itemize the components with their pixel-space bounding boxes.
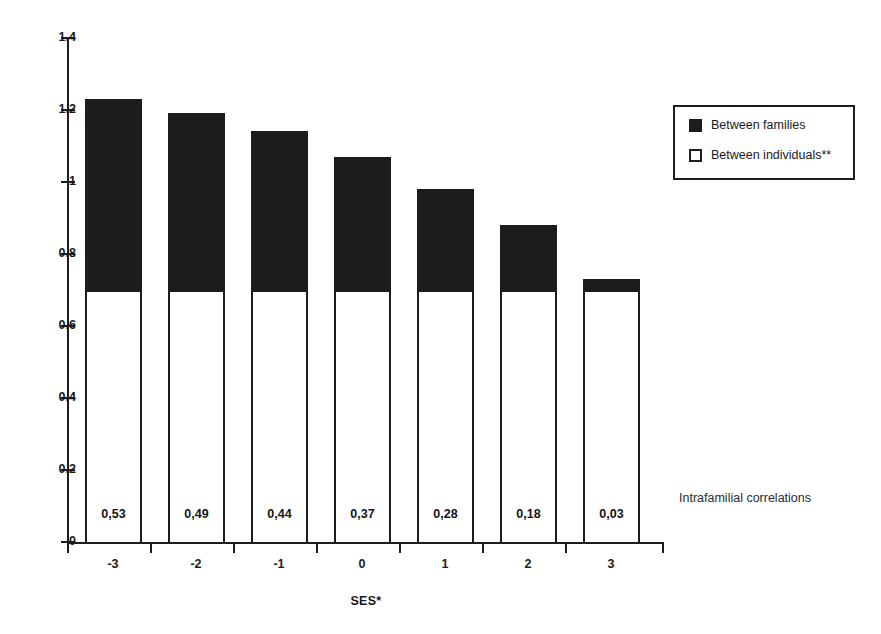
bar-value-label: 0,28	[417, 508, 474, 521]
bar-value-label: 0,18	[500, 508, 557, 521]
bar-segment-individuals	[417, 290, 474, 542]
y-tick-label: 1.4	[30, 31, 76, 44]
bar-segment-families	[334, 157, 391, 290]
x-tick-label-ses-3: 3	[581, 558, 641, 571]
bar-value-label: 0,03	[583, 508, 640, 521]
x-tick-label-ses-minus3: -3	[83, 558, 143, 571]
bar-segment-individuals	[251, 290, 308, 542]
bar-segment-families	[85, 99, 142, 290]
legend-label: Between individuals**	[711, 149, 831, 162]
bar-value-label: 0,44	[251, 508, 308, 521]
bar-segment-families	[168, 113, 225, 290]
legend-swatch-filled-icon	[689, 119, 702, 132]
x-axis-line	[67, 542, 664, 544]
legend-item-between-families: Between families	[689, 119, 806, 132]
bar-segment-families	[500, 225, 557, 290]
y-tick-label: 0.8	[30, 247, 76, 260]
x-tick-label-ses-1: 1	[415, 558, 475, 571]
legend-box: Between families Between individuals**	[673, 105, 855, 180]
bar-segment-individuals	[500, 290, 557, 542]
x-tick-label-ses-minus2: -2	[166, 558, 226, 571]
y-tick-label: 1	[30, 175, 76, 188]
x-tick-mark	[67, 543, 69, 553]
bar-segment-families	[251, 131, 308, 290]
x-tick-mark	[399, 543, 401, 553]
x-tick-mark	[482, 543, 484, 553]
bar-value-label: 0,49	[168, 508, 225, 521]
x-tick-label-ses-0: 0	[332, 558, 392, 571]
intrafamilial-correlations-annotation: Intrafamilial correlations	[679, 492, 811, 505]
bar-segment-individuals	[334, 290, 391, 542]
y-tick-label: 1.2	[30, 103, 76, 116]
x-tick-mark	[565, 543, 567, 553]
x-tick-label-ses-minus1: -1	[249, 558, 309, 571]
y-tick-label: 0.4	[30, 391, 76, 404]
legend-label: Between families	[711, 119, 806, 132]
y-tick-label: 0.6	[30, 319, 76, 332]
x-tick-mark-end	[662, 543, 664, 553]
legend-item-between-individuals: Between individuals**	[689, 149, 831, 162]
bar-segment-families	[583, 279, 640, 290]
x-axis-title: SES*	[306, 594, 426, 608]
bar-value-label: 0,53	[85, 508, 142, 521]
y-tick-label: 0.2	[30, 463, 76, 476]
bar-segment-families	[417, 189, 474, 290]
bar-segment-individuals	[583, 290, 640, 542]
x-tick-mark	[233, 543, 235, 553]
x-tick-label-ses-2: 2	[498, 558, 558, 571]
legend-swatch-open-icon	[689, 149, 702, 162]
x-tick-mark	[316, 543, 318, 553]
chart-figure: 1.4 1.2 1 0.8 0.6 0.4 0.2 0 0,53 0,49	[0, 0, 881, 634]
bar-segment-individuals	[85, 290, 142, 542]
x-tick-mark	[150, 543, 152, 553]
bar-segment-individuals	[168, 290, 225, 542]
bar-value-label: 0,37	[334, 508, 391, 521]
